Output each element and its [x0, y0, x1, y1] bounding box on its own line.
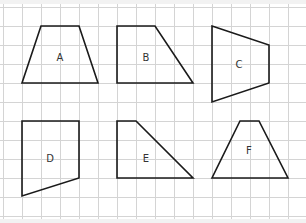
shape-label: E	[143, 153, 149, 164]
shape-label: D	[46, 153, 54, 164]
shape-label: B	[143, 52, 150, 63]
grid-background	[0, 4, 306, 219]
shape-label: F	[246, 145, 252, 156]
shape-label: C	[236, 59, 243, 70]
shape-label: A	[57, 52, 64, 63]
shapes-diagram: ABCDEF	[0, 0, 306, 223]
